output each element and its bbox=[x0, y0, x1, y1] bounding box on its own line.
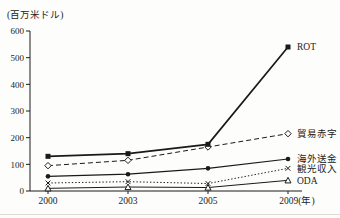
series-line bbox=[48, 180, 288, 188]
series-観光収入: 観光収入 bbox=[46, 163, 337, 186]
y-tick-label: 100 bbox=[11, 160, 25, 170]
y-tick-label: 0 bbox=[20, 186, 25, 196]
line-chart-canvas: 01002003004005006002000200320052009(年)OD… bbox=[0, 0, 340, 218]
marker-filled-circle bbox=[126, 172, 131, 177]
series-貿易赤字: 貿易赤字 bbox=[45, 128, 337, 169]
series-line bbox=[48, 47, 288, 156]
series-line bbox=[48, 159, 288, 176]
y-tick-label: 500 bbox=[11, 53, 25, 63]
series-海外送金: 海外送金 bbox=[46, 153, 337, 178]
y-tick-label: 400 bbox=[11, 80, 25, 90]
marker-filled-circle bbox=[206, 166, 211, 171]
marker-filled-square bbox=[206, 142, 211, 147]
figure-bottom-rule bbox=[0, 214, 340, 215]
x-tick-label: 2009(年) bbox=[279, 195, 314, 207]
marker-filled-square bbox=[46, 154, 51, 159]
marker-open-diamond bbox=[125, 157, 131, 163]
x-tick-label: 2003 bbox=[119, 196, 138, 206]
y-tick-label: 300 bbox=[11, 106, 25, 116]
marker-filled-square bbox=[286, 45, 291, 50]
marker-filled-square bbox=[126, 151, 131, 156]
axes bbox=[26, 31, 302, 194]
y-tick-label: 600 bbox=[11, 26, 25, 36]
chart-figure: (百万米ドル) 01002003004005006002000200320052… bbox=[0, 0, 340, 218]
marker-x bbox=[286, 166, 291, 171]
x-tick-label: 2000 bbox=[39, 196, 58, 206]
x-tick-label: 2005 bbox=[199, 196, 218, 206]
series-end-label: 海外送金 bbox=[297, 153, 337, 164]
marker-open-diamond bbox=[45, 162, 51, 168]
series-ROT: ROT bbox=[46, 42, 317, 159]
series-end-label: 貿易赤字 bbox=[297, 128, 337, 139]
series-end-label: ROT bbox=[297, 42, 316, 52]
y-tick-label: 200 bbox=[11, 133, 25, 143]
marker-filled-circle bbox=[46, 174, 51, 179]
marker-open-diamond bbox=[285, 130, 291, 136]
marker-filled-circle bbox=[286, 157, 291, 162]
series-end-label: ODA bbox=[297, 176, 318, 186]
